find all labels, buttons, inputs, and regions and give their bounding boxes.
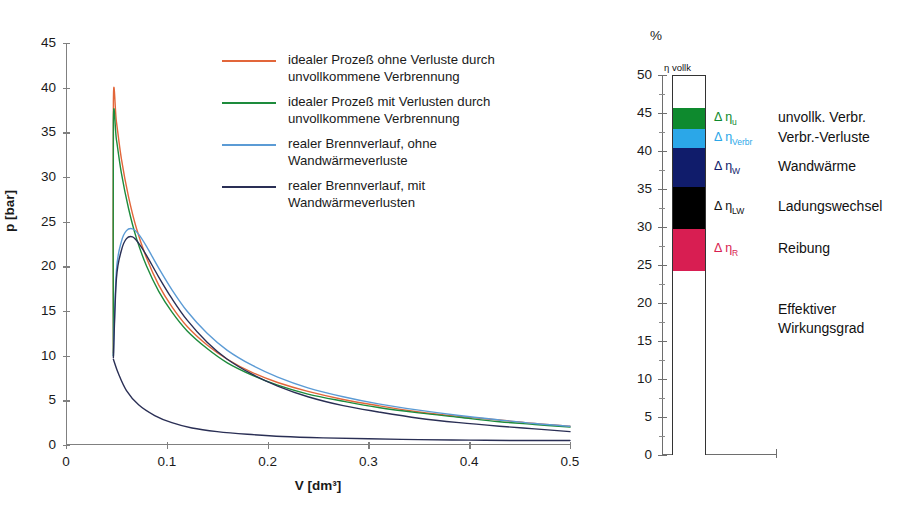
- pv-legend-swatch: [222, 144, 276, 146]
- efficiency-y-tick-mark: [658, 75, 667, 76]
- pv-y-tick-label: 20: [22, 259, 56, 273]
- pv-legend-swatch: [222, 102, 276, 104]
- efficiency-unit-label: %: [650, 28, 662, 43]
- efficiency-stacked-bar: [672, 75, 706, 455]
- efficiency-y-tick-mark: [658, 227, 667, 228]
- efficiency-y-minor-tick: [659, 94, 665, 95]
- efficiency-segment: [673, 229, 705, 272]
- pv-legend-item: idealer Prozeß ohne Verluste durch unvol…: [222, 52, 512, 85]
- efficiency-y-minor-tick: [659, 170, 665, 171]
- efficiency-segment-label: Wandwärme: [778, 159, 856, 173]
- pv-curve: [113, 229, 570, 427]
- pv-x-tick-label: 0.3: [346, 455, 390, 469]
- pv-y-tick-label: 0: [22, 438, 56, 452]
- efficiency-segment-label: Verbr.-Verluste: [778, 130, 870, 144]
- efficiency-segment-label: Reibung: [778, 241, 830, 255]
- efficiency-y-minor-tick: [659, 360, 665, 361]
- efficiency-y-tick-mark: [658, 341, 667, 342]
- effective-efficiency-line2: Wirkungsgrad: [778, 319, 864, 338]
- efficiency-segment-label: unvollk. Verbr.: [778, 110, 866, 124]
- effective-efficiency-label: Effektiver Wirkungsgrad: [778, 300, 864, 338]
- pv-x-tick-label: 0.2: [246, 455, 290, 469]
- pv-x-tick-label: 0: [44, 455, 88, 469]
- pv-legend-item: realer Brennverlauf, mit Wandwärmeverlus…: [222, 178, 512, 211]
- pv-legend-swatch: [222, 186, 276, 188]
- pv-y-tick-label: 25: [22, 215, 56, 229]
- efficiency-y-minor-tick: [659, 436, 665, 437]
- pv-x-tick-label: 0.1: [145, 455, 189, 469]
- figure-root: 051015202530354045 00.10.20.30.40.5 p [b…: [0, 0, 915, 524]
- pv-y-tick-label: 30: [22, 170, 56, 184]
- efficiency-y-minor-tick: [659, 246, 665, 247]
- efficiency-y-tick-label: 30: [622, 220, 652, 234]
- pv-curve: [113, 236, 570, 431]
- pv-legend-label: realer Brennverlauf, mit Wandwärmeverlus…: [288, 178, 512, 211]
- efficiency-y-tick-label: 25: [622, 258, 652, 272]
- efficiency-segment-symbol: Δ ηLW: [714, 200, 744, 215]
- efficiency-y-minor-tick: [659, 284, 665, 285]
- efficiency-y-minor-tick: [659, 398, 665, 399]
- efficiency-segment-label: Ladungswechsel: [778, 199, 882, 213]
- efficiency-segment: [673, 108, 705, 129]
- efficiency-y-minor-tick: [659, 132, 665, 133]
- efficiency-y-tick-label: 15: [622, 334, 652, 348]
- pv-x-tick-mark: [570, 442, 571, 449]
- efficiency-y-tick-label: 35: [622, 182, 652, 196]
- efficiency-segment: [673, 187, 705, 229]
- efficiency-y-tick-label: 40: [622, 144, 652, 158]
- efficiency-y-tick-label: 45: [622, 106, 652, 120]
- pv-y-tick-label: 10: [22, 349, 56, 363]
- efficiency-segment-symbol: Δ ηW: [714, 160, 740, 175]
- efficiency-segment-symbol: Δ ηVerbr: [714, 131, 752, 146]
- pv-x-tick-label: 0.4: [447, 455, 491, 469]
- pv-legend-item: idealer Prozeß mit Verlusten durch unvol…: [222, 94, 512, 127]
- pv-legend-swatch: [222, 60, 276, 62]
- pv-legend-label: idealer Prozeß ohne Verluste durch unvol…: [288, 52, 512, 85]
- pv-y-tick-label: 5: [22, 393, 56, 407]
- pv-legend-label: idealer Prozeß mit Verlusten durch unvol…: [288, 94, 512, 127]
- effective-efficiency-line1: Effektiver: [778, 300, 864, 319]
- efficiency-y-tick-mark: [658, 265, 667, 266]
- efficiency-y-tick-label: 10: [622, 372, 652, 386]
- efficiency-y-tick-label: 20: [622, 296, 652, 310]
- pv-y-axis-label: p [bar]: [2, 190, 17, 232]
- efficiency-y-tick-mark: [658, 417, 667, 418]
- pv-y-tick-label: 15: [22, 304, 56, 318]
- efficiency-segment: [673, 129, 705, 148]
- efficiency-y-tick-mark: [658, 113, 667, 114]
- efficiency-segment-symbol: Δ ηu: [714, 111, 737, 126]
- pv-legend-item: realer Brennverlauf, ohne Wandwärmeverlu…: [222, 136, 512, 169]
- pv-legend-label: realer Brennverlauf, ohne Wandwärmeverlu…: [288, 136, 512, 169]
- efficiency-y-tick-mark: [658, 151, 667, 152]
- efficiency-bar-caption: η vollk: [664, 62, 691, 73]
- efficiency-y-minor-tick: [659, 208, 665, 209]
- efficiency-y-tick-label: 5: [622, 410, 652, 424]
- efficiency-y-tick-mark: [658, 379, 667, 380]
- efficiency-y-tick-mark: [658, 455, 667, 456]
- efficiency-segment-symbol: Δ ηR: [714, 242, 738, 257]
- efficiency-segment: [673, 148, 705, 187]
- pv-x-axis-label: V [dm³]: [66, 478, 570, 493]
- pv-y-tick-label: 35: [22, 125, 56, 139]
- efficiency-y-tick-label: 0: [622, 448, 652, 462]
- efficiency-y-minor-tick: [659, 322, 665, 323]
- efficiency-baseline-end-tick: [776, 449, 777, 458]
- pv-y-tick-label: 45: [22, 36, 56, 50]
- pressure-volume-chart: 051015202530354045 00.10.20.30.40.5 p [b…: [0, 0, 600, 524]
- pv-curve: [113, 359, 570, 440]
- pv-x-tick-label: 0.5: [548, 455, 592, 469]
- pv-y-tick-label: 40: [22, 81, 56, 95]
- efficiency-y-tick-mark: [658, 303, 667, 304]
- efficiency-y-tick-mark: [658, 189, 667, 190]
- efficiency-y-tick-label: 50: [622, 68, 652, 82]
- efficiency-chart: % 05101520253035404550 η vollk Δ ηuΔ ηVe…: [600, 0, 915, 524]
- efficiency-segment: [673, 271, 705, 456]
- pv-legend: idealer Prozeß ohne Verluste durch unvol…: [222, 52, 512, 220]
